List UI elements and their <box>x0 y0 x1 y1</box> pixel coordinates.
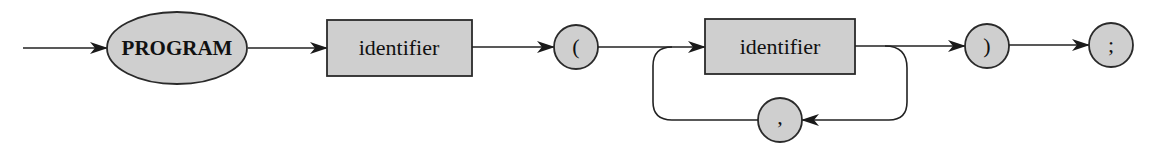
comma-terminal-node: , <box>758 98 802 142</box>
program-keyword-label: PROGRAM <box>122 36 233 60</box>
semicolon-label: ; <box>1108 32 1114 57</box>
lparen-terminal-node: ( <box>554 25 598 69</box>
program-keyword-node: PROGRAM <box>107 12 247 84</box>
comma-label: , <box>777 104 783 129</box>
rparen-label: ) <box>983 33 990 58</box>
semicolon-terminal-node: ; <box>1089 23 1133 67</box>
lparen-label: ( <box>572 34 579 59</box>
identifier-label-1: identifier <box>359 35 440 60</box>
syntax-diagram: PROGRAM identifier ( identifier , ) ; <box>0 0 1157 143</box>
rparen-terminal-node: ) <box>965 24 1009 68</box>
identifier-node-2: identifier <box>705 19 855 74</box>
identifier-label-2: identifier <box>740 34 821 59</box>
identifier-node-1: identifier <box>327 20 472 76</box>
